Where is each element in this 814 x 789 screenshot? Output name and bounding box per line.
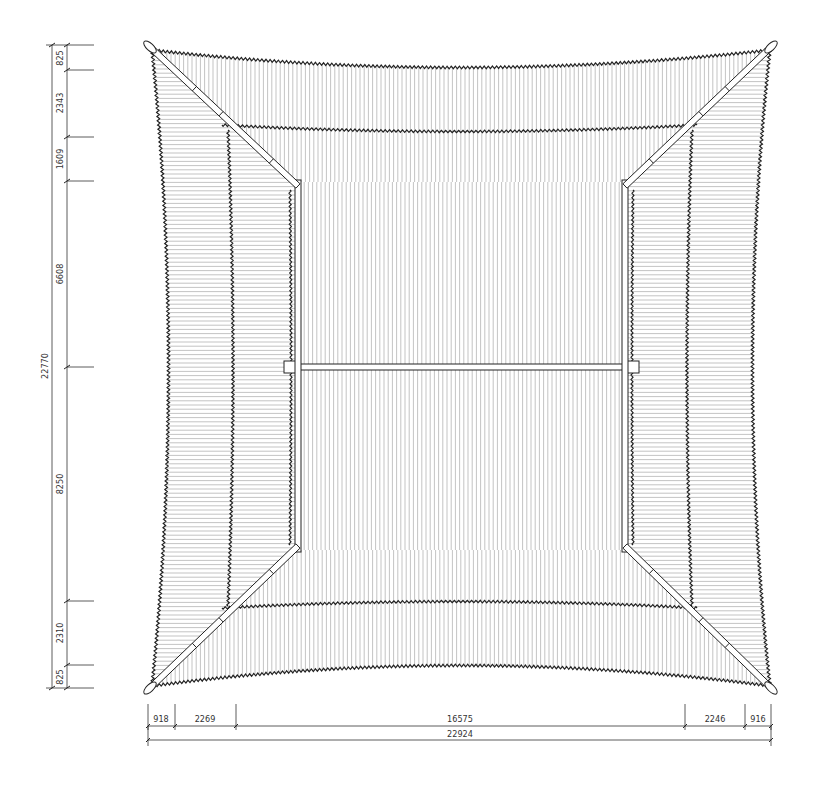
tile-course-left [227, 130, 234, 606]
horizontal-dimension-chain: 918 2269 16575 2246 916 22924 [146, 704, 773, 746]
eave-right [751, 50, 771, 686]
vertical-dimension-chain: 22770 825 2343 1609 6608 8250 2310 825 [40, 43, 94, 690]
tile-course-right [686, 130, 693, 606]
horizontal-dim-label-3: 16575 [447, 714, 473, 724]
hip-end-cap [763, 39, 779, 55]
hip-band [148, 45, 300, 188]
vertical-dim-label-4: 6608 [55, 264, 65, 285]
vertical-dim-label-7: 825 [55, 669, 65, 684]
hip-band [148, 544, 300, 690]
roof-slope-top [150, 40, 772, 190]
horizontal-dim-label-5: 916 [750, 714, 765, 724]
vertical-dim-label-3: 1609 [55, 149, 65, 170]
ridge-post-right [622, 180, 628, 552]
horizontal-dim-label-2: 2269 [195, 714, 216, 724]
ridges [142, 39, 779, 696]
vertical-dim-label-6: 2310 [55, 623, 65, 644]
eave-left [151, 50, 170, 686]
vertical-overall-dim-label: 22770 [40, 353, 50, 379]
main-ridge [298, 364, 625, 370]
horizontal-dim-label-4: 2246 [705, 714, 726, 724]
tile-course-bottom [222, 600, 697, 609]
roof-plan-drawing: 22770 825 2343 1609 6608 8250 2310 825 9… [0, 0, 814, 789]
horizontal-overall-dim-label: 22924 [447, 729, 473, 739]
eave-bottom [152, 664, 770, 687]
vertical-dim-label-1: 825 [55, 50, 65, 65]
ridge-post-left [295, 180, 301, 552]
horizontal-dim-label-1: 918 [153, 714, 168, 724]
hip-end-cap [142, 680, 158, 696]
vertical-dim-label-2: 2343 [55, 93, 65, 114]
vertical-dim-label-5: 8250 [55, 474, 65, 495]
roof-slope-bottom [150, 545, 772, 695]
hip-end-cap [142, 39, 158, 55]
tile-course-top [222, 124, 697, 133]
eave-top [152, 49, 770, 69]
